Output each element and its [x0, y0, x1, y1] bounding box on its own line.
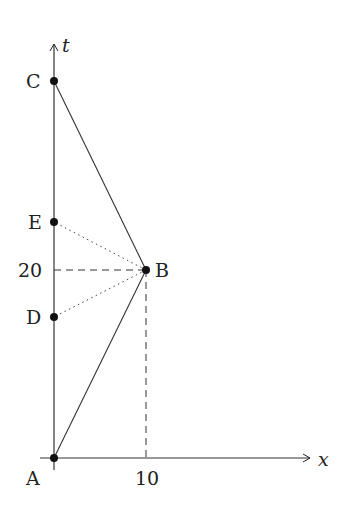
point-b [142, 266, 150, 274]
x-axis-label: x [318, 448, 329, 470]
point-d [50, 313, 58, 321]
label-b: B [155, 259, 169, 281]
label-e: E [28, 211, 42, 233]
spacetime-diagram: t x C E 20 B D A 10 [0, 0, 349, 511]
point-e [50, 218, 58, 226]
label-c: C [26, 70, 41, 92]
x-tick-label: 10 [135, 467, 159, 489]
segment-b-c [54, 81, 146, 270]
t-tick-label: 20 [18, 259, 42, 281]
dotted-b-e [54, 222, 146, 270]
label-a: A [25, 467, 40, 489]
dotted-b-d [54, 270, 146, 317]
label-d: D [26, 306, 41, 328]
point-c [50, 77, 58, 85]
t-axis-label: t [62, 34, 70, 56]
segment-a-b [54, 270, 146, 458]
point-a [50, 454, 58, 462]
